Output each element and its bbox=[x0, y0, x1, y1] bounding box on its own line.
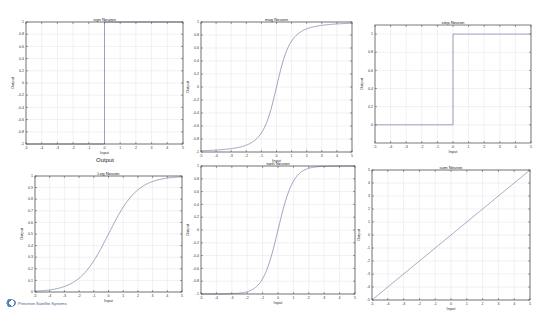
x-tick-label: -1 bbox=[260, 154, 263, 158]
x-tick-label: -4 bbox=[214, 154, 217, 158]
chart-title: mag Neuron bbox=[265, 17, 289, 22]
y-axis-label: Output bbox=[359, 77, 364, 90]
x-tick-label: -5 bbox=[199, 154, 202, 158]
x-tick-label: 4 bbox=[166, 146, 168, 150]
x-tick-label: -5 bbox=[199, 296, 202, 300]
x-tick-label: 1 bbox=[468, 145, 470, 149]
x-tick-label: 5 bbox=[529, 302, 531, 306]
y-tick-label: 1 bbox=[22, 20, 24, 24]
x-tick-label: 2 bbox=[135, 146, 137, 150]
y-axis-label: Output bbox=[185, 80, 190, 93]
y-tick-label: -1 bbox=[196, 150, 199, 154]
y-tick-label: -0.4 bbox=[18, 106, 24, 110]
y-tick-label: 0 bbox=[197, 85, 199, 89]
y-tick-label: 0.8 bbox=[194, 33, 199, 37]
y-tick-label: 3 bbox=[368, 194, 370, 198]
x-axis-label: Input bbox=[100, 150, 110, 155]
y-tick-label: 0.6 bbox=[194, 46, 199, 50]
y-tick-label: -0.2 bbox=[193, 241, 199, 245]
x-tick-label: 5 bbox=[354, 296, 356, 300]
chart-mag-neuron: -5-4-3-2-1012345-1-0.8-0.6-0.4-0.200.20.… bbox=[185, 17, 353, 164]
x-axis-label: Input bbox=[104, 298, 114, 303]
y-tick-label: 0.4 bbox=[194, 59, 199, 63]
x-tick-label: -1 bbox=[434, 302, 437, 306]
y-tick-label: 0.6 bbox=[368, 69, 373, 73]
x-tick-label: -5 bbox=[370, 302, 373, 306]
x-tick-label: 3 bbox=[497, 302, 499, 306]
y-axis-label: Output bbox=[19, 227, 24, 240]
x-tick-label: -3 bbox=[402, 302, 405, 306]
y-tick-label: -0.4 bbox=[193, 254, 199, 258]
x-tick-label: 4 bbox=[336, 154, 338, 158]
x-tick-label: 2 bbox=[137, 294, 139, 298]
x-tick-label: 3 bbox=[152, 294, 154, 298]
y-tick-label: -1 bbox=[21, 142, 24, 146]
x-tick-label: 1 bbox=[466, 302, 468, 306]
x-tick-label: 5 bbox=[530, 145, 532, 149]
x-tick-label: -1 bbox=[87, 146, 90, 150]
y-tick-label: -4 bbox=[367, 285, 370, 289]
company-logo: Princeton Satellite Systems bbox=[4, 299, 67, 307]
x-tick-label: -1 bbox=[92, 294, 95, 298]
x-tick-label: -5 bbox=[24, 146, 27, 150]
x-tick-label: 4 bbox=[514, 145, 516, 149]
x-tick-label: 1 bbox=[291, 154, 293, 158]
y-tick-label: 0.4 bbox=[19, 57, 24, 61]
y-tick-label: 1 bbox=[197, 20, 199, 24]
y-tick-label: -0.6 bbox=[193, 267, 199, 271]
y-tick-label: 0.2 bbox=[28, 267, 33, 271]
x-tick-label: -3 bbox=[230, 154, 233, 158]
chart-title: tanh Neuron bbox=[266, 161, 290, 166]
y-tick-label: -0.8 bbox=[18, 130, 24, 134]
y-tick-label: -2 bbox=[367, 259, 370, 263]
x-tick-label: -2 bbox=[418, 302, 421, 306]
y-tick-label: 0 bbox=[31, 290, 33, 294]
x-tick-label: -1 bbox=[436, 145, 439, 149]
x-tick-label: 5 bbox=[182, 146, 184, 150]
y-tick-label: 0.8 bbox=[28, 197, 33, 201]
y-tick-label: 2 bbox=[368, 207, 370, 211]
chart-title: step Neuron bbox=[442, 20, 465, 25]
y-tick-label: -0.4 bbox=[193, 111, 199, 115]
y-tick-label: 0.8 bbox=[368, 50, 373, 54]
x-tick-label: -3 bbox=[230, 296, 233, 300]
y-tick-label: -5 bbox=[367, 298, 370, 302]
y-tick-label: 0.4 bbox=[28, 244, 33, 248]
y-tick-label: 0.4 bbox=[194, 203, 199, 207]
x-tick-label: 2 bbox=[306, 154, 308, 158]
y-tick-label: 1 bbox=[368, 220, 370, 224]
x-tick-label: 3 bbox=[499, 145, 501, 149]
x-tick-label: -3 bbox=[56, 146, 59, 150]
x-tick-label: 5 bbox=[351, 154, 353, 158]
x-axis-label: Input bbox=[274, 300, 284, 305]
y-tick-label: -0.8 bbox=[193, 279, 199, 283]
y-tick-label: 0.6 bbox=[19, 45, 24, 49]
y-tick-label: 0.5 bbox=[28, 232, 33, 236]
y-tick-label: 0.2 bbox=[19, 69, 24, 73]
x-tick-label: 1 bbox=[292, 296, 294, 300]
x-tick-label: 4 bbox=[166, 294, 168, 298]
y-tick-label: 4 bbox=[368, 181, 370, 185]
y-axis-label: Output bbox=[10, 76, 15, 89]
y-tick-label: 0.3 bbox=[28, 255, 33, 259]
x-tick-label: -2 bbox=[420, 145, 423, 149]
y-tick-label: -1 bbox=[196, 292, 199, 296]
y-tick-label: 0 bbox=[22, 81, 24, 85]
x-tick-label: -3 bbox=[63, 294, 66, 298]
y-tick-label: 0.6 bbox=[28, 221, 33, 225]
y-tick-label: 0.7 bbox=[28, 209, 33, 213]
chart-sign-neuron: -5-4-3-2-1012345-1-0.8-0.6-0.4-0.200.20.… bbox=[10, 17, 184, 156]
chart-title: sign Neuron bbox=[93, 17, 116, 22]
x-tick-label: 2 bbox=[483, 145, 485, 149]
x-tick-label: -4 bbox=[48, 294, 51, 298]
y-tick-label: -0.2 bbox=[193, 98, 199, 102]
y-tick-label: -1 bbox=[367, 246, 370, 250]
x-tick-label: -4 bbox=[386, 302, 389, 306]
x-tick-label: 2 bbox=[308, 296, 310, 300]
x-tick-label: 3 bbox=[151, 146, 153, 150]
x-tick-label: 3 bbox=[323, 296, 325, 300]
y-axis-label: Output bbox=[185, 223, 190, 236]
chart-title: Log Neuron bbox=[98, 171, 121, 176]
x-tick-label: 4 bbox=[513, 302, 515, 306]
x-tick-label: 1 bbox=[119, 146, 121, 150]
